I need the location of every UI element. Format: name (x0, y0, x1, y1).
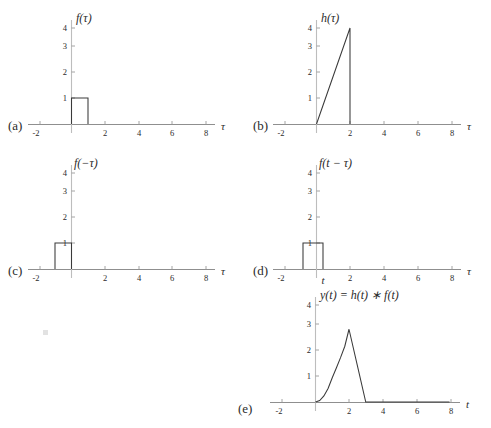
panel-tag-d: (d) (253, 263, 268, 279)
x-tick-label: 8 (450, 273, 454, 283)
x-tick-label: -2 (277, 128, 284, 138)
signal-curve (317, 28, 351, 124)
panel-tag-a: (a) (8, 118, 22, 134)
x-tick-label: 2 (103, 273, 107, 283)
y-tick-label: 3 (63, 186, 67, 196)
signal-curve (303, 243, 323, 269)
panel-d: -2 2 4 6 8 1 2 3 4 t f(t − τ) τ (245, 145, 491, 290)
panel-c: -2 2 4 6 8 1 2 3 4 f(−τ) τ (0, 145, 245, 290)
x-tick-label: 8 (204, 273, 208, 283)
panel-c-plot: -2 2 4 6 8 1 2 3 4 f(−τ) τ (0, 145, 245, 290)
panel-e: -2 2 4 6 8 1 2 3 4 y(t) = h(t) ∗ f(t) t (230, 285, 491, 428)
y-tick-label: 4 (307, 300, 312, 310)
x-axis-label: t (466, 398, 470, 410)
panel-tag-c: (c) (8, 263, 22, 279)
x-tick-label: 4 (381, 406, 386, 416)
y-tick-label: 2 (308, 67, 312, 77)
panel-b-plot: -2 2 4 6 8 1 2 3 4 h(τ) τ (245, 0, 491, 145)
x-tick-label: -2 (32, 128, 39, 138)
y-tick-label: 3 (307, 319, 311, 329)
y-tick-label: 2 (63, 67, 67, 77)
y-tick-label: 1 (308, 93, 312, 103)
panel-d-plot: -2 2 4 6 8 1 2 3 4 t f(t − τ) τ (245, 145, 491, 290)
y-tick-label: 4 (63, 23, 68, 33)
panel-e-plot: -2 2 4 6 8 1 2 3 4 y(t) = h(t) ∗ f(t) t (230, 285, 491, 428)
scan-artifact (43, 330, 48, 335)
x-tick-label: 2 (348, 128, 352, 138)
panel-b: -2 2 4 6 8 1 2 3 4 h(τ) τ (245, 0, 491, 145)
x-tick-label: 4 (382, 273, 387, 283)
x-tick-label: -2 (32, 273, 39, 283)
x-tick-label: 8 (450, 128, 454, 138)
x-tick-label: 2 (347, 406, 351, 416)
x-axis-label: τ (221, 265, 226, 277)
y-tick-label: 3 (308, 186, 312, 196)
x-tick-label: -2 (275, 406, 282, 416)
x-tick-label: 4 (382, 128, 387, 138)
x-tick-label: 4 (137, 273, 142, 283)
x-tick-label: 8 (204, 128, 208, 138)
x-tick-label: 6 (416, 273, 420, 283)
x-tick-label: 6 (416, 128, 420, 138)
x-axis-label: τ (221, 120, 226, 132)
y-tick-label: 1 (63, 93, 67, 103)
x-tick-label: 6 (170, 128, 174, 138)
panel-tag-b: (b) (253, 118, 268, 134)
panel-tag-e: (e) (238, 401, 252, 417)
y-tick-label: 3 (63, 41, 67, 51)
y-tick-label: 2 (308, 212, 312, 222)
x-tick-label: 8 (449, 406, 453, 416)
convolution-curve (316, 329, 450, 402)
y-tick-label: 4 (308, 23, 313, 33)
x-tick-label: 2 (348, 273, 352, 283)
signal-curve (72, 98, 89, 124)
x-tick-label: 2 (103, 128, 107, 138)
panel-title: y(t) = h(t) ∗ f(t) (319, 288, 399, 302)
y-tick-label: 2 (307, 345, 311, 355)
y-tick-label: 3 (308, 41, 312, 51)
panel-a: -2 2 4 6 8 1 2 3 4 f(τ) τ (0, 0, 245, 145)
panel-title: f(τ) (76, 11, 92, 25)
x-tick-label: -2 (277, 273, 284, 283)
y-tick-label: 1 (307, 371, 311, 381)
x-axis-label: τ (467, 265, 472, 277)
y-tick-label: 4 (308, 168, 313, 178)
x-tick-label: 4 (137, 128, 142, 138)
y-tick-label: 4 (63, 168, 68, 178)
panel-a-plot: -2 2 4 6 8 1 2 3 4 f(τ) τ (0, 0, 245, 145)
convolution-figure: -2 2 4 6 8 1 2 3 4 f(τ) τ (a) (0, 0, 491, 428)
panel-title: f(t − τ) (319, 156, 352, 170)
y-tick-label: 2 (63, 212, 67, 222)
panel-title: h(τ) (321, 11, 339, 25)
x-tick-label: 6 (170, 273, 174, 283)
panel-title: f(−τ) (74, 156, 98, 170)
x-axis-label: τ (467, 120, 472, 132)
x-tick-label: 6 (415, 406, 419, 416)
